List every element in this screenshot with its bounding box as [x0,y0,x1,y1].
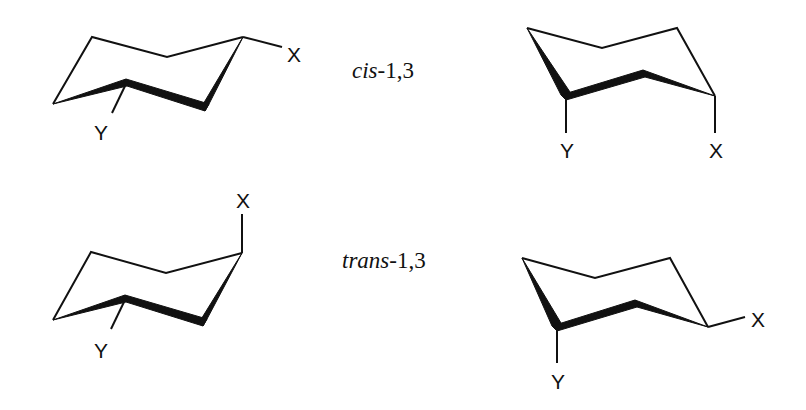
ring-front-bold-bond [561,70,645,100]
y-label: Y [551,370,565,393]
x-label: X [751,308,765,331]
ring-front-bold-bond [552,300,637,331]
x-label: X [287,43,301,66]
trans-caption: trans-1,3 [342,248,426,273]
ring-front-bold-bond [125,295,207,326]
y-bond [112,86,125,113]
y-label: Y [560,139,574,162]
ring-front-wedge-right [643,70,715,96]
x-bond [243,37,282,47]
ring-front-wedge-left [522,258,561,331]
cyclohexane-diagram: X Y cis-1,3 Y X X Y trans-1,3 [0,0,806,410]
x-bond [708,317,745,327]
cis-caption: cis-1,3 [352,58,414,83]
x-label: X [709,139,723,162]
cis-chair-right: Y X [527,28,723,162]
trans-caption-suffix: -1,3 [389,248,425,273]
ring-front-wedge-left [527,28,570,100]
y-bond [111,302,124,329]
x-label: X [236,189,250,212]
cis-caption-prefix: cis [352,58,378,83]
ring-front-bold-bond [126,79,209,111]
ring-front-wedge-right [200,253,242,326]
cis-chair-left: X Y [53,37,301,144]
trans-chair-left: X Y [53,189,250,362]
trans-caption-prefix: trans [342,248,389,273]
y-label: Y [94,339,108,362]
y-label: Y [94,121,108,144]
ring-front-wedge-left [53,79,127,104]
trans-chair-right: X Y [522,258,765,393]
cis-caption-suffix: -1,3 [378,58,414,83]
ring-front-wedge-right [202,37,243,111]
ring-front-wedge-right [635,300,708,327]
